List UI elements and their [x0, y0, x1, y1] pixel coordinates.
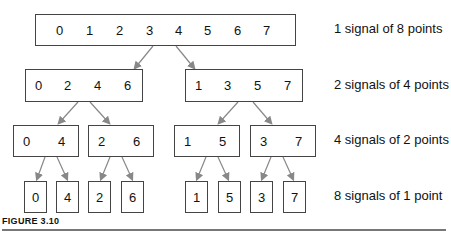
- signal-2-points-box: 3 7: [250, 125, 316, 157]
- sample-value: 3: [146, 23, 153, 38]
- signal-2-points-box: 2 6: [88, 125, 154, 157]
- sample-value: 7: [295, 134, 302, 149]
- sample-value: 3: [260, 134, 267, 149]
- sample-value: 6: [234, 23, 241, 38]
- sample-value: 4: [175, 23, 182, 38]
- sample-value: 7: [284, 78, 291, 93]
- signal-8-points-box: 0 1 2 3 4 5 6 7: [35, 14, 296, 46]
- sample-value: 0: [32, 190, 39, 205]
- figure-caption: FIGURE 3.10: [2, 216, 59, 226]
- sample-value: 0: [35, 78, 42, 93]
- signal-2-points-box: 1 5: [174, 125, 240, 157]
- sample-value: 3: [224, 78, 231, 93]
- sample-value: 2: [64, 78, 71, 93]
- sample-value: 1: [195, 78, 202, 93]
- sample-value: 6: [124, 78, 131, 93]
- sample-value: 6: [133, 134, 140, 149]
- sample-value: 6: [129, 190, 136, 205]
- sample-value: 0: [56, 23, 63, 38]
- signal-1-point-box: 4: [56, 181, 79, 213]
- sample-value: 2: [96, 190, 103, 205]
- row-1-label: 1 signal of 8 points: [334, 21, 442, 36]
- sample-value: 7: [263, 23, 270, 38]
- row-3-label: 4 signals of 2 points: [334, 132, 449, 147]
- signal-1-point-box: 7: [283, 181, 306, 213]
- sample-value: 4: [64, 190, 71, 205]
- sample-value: 5: [204, 23, 211, 38]
- sample-value: 4: [94, 78, 101, 93]
- signal-1-point-box: 5: [218, 181, 241, 213]
- sample-value: 5: [226, 190, 233, 205]
- sample-value: 4: [58, 134, 65, 149]
- caption-rule: [2, 229, 446, 231]
- signal-1-point-box: 1: [185, 181, 208, 213]
- row-2-label: 2 signals of 4 points: [334, 77, 449, 92]
- sample-value: 2: [98, 134, 105, 149]
- sample-value: 7: [291, 190, 298, 205]
- sample-value: 1: [86, 23, 93, 38]
- signal-4-points-even-box: 0 2 4 6: [25, 69, 143, 102]
- signal-1-point-box: 3: [250, 181, 273, 213]
- signal-4-points-odd-box: 1 3 5 7: [185, 69, 303, 102]
- sample-value: 5: [254, 78, 261, 93]
- sample-value: 0: [23, 134, 30, 149]
- sample-value: 3: [258, 190, 265, 205]
- signal-1-point-box: 2: [88, 181, 111, 213]
- sample-value: 2: [116, 23, 123, 38]
- row-4-label: 8 signals of 1 point: [334, 188, 442, 203]
- signal-1-point-box: 0: [24, 181, 47, 213]
- signal-2-points-box: 0 4: [13, 125, 79, 157]
- sample-value: 1: [184, 134, 191, 149]
- sample-value: 5: [219, 134, 226, 149]
- sample-value: 1: [193, 190, 200, 205]
- signal-1-point-box: 6: [121, 181, 144, 213]
